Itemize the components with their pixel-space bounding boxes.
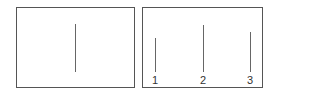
line-1 bbox=[155, 38, 156, 72]
line-3-label: 3 bbox=[244, 75, 256, 86]
line-2-label: 2 bbox=[197, 75, 209, 86]
left-panel-line bbox=[75, 24, 76, 72]
line-2 bbox=[203, 25, 204, 72]
line-3 bbox=[250, 32, 251, 72]
line-1-label: 1 bbox=[149, 75, 161, 86]
